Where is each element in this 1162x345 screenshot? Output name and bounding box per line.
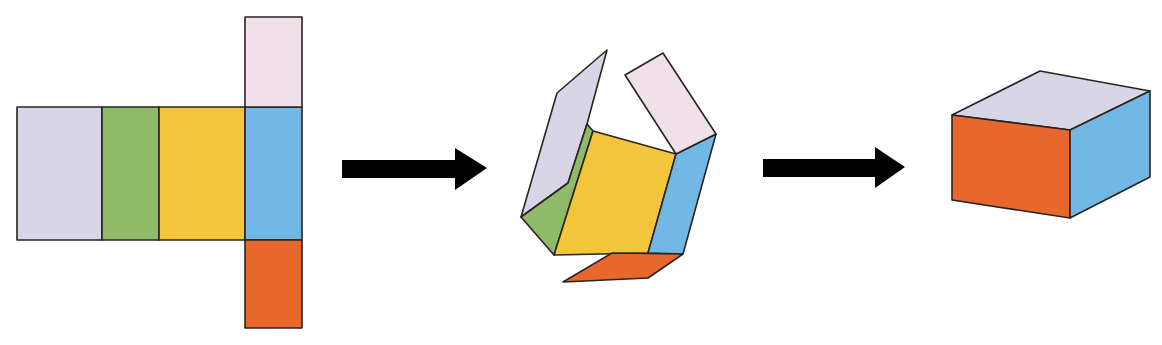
folding-net (521, 50, 716, 282)
pink-flap (245, 17, 302, 107)
blue-face (245, 107, 302, 240)
green-face (102, 107, 159, 240)
closed-box (952, 71, 1150, 218)
diagram-canvas (0, 0, 1162, 345)
arrow-2-icon (763, 147, 905, 188)
arrow-1-icon (342, 148, 487, 190)
lavender-face (17, 107, 102, 240)
orange-flap (563, 253, 683, 282)
front-face (952, 115, 1070, 218)
diagram: Net of a rectangular prism folding into … (0, 0, 1162, 345)
pink-flap (625, 53, 716, 154)
flat-net (17, 17, 302, 328)
yellow-face (159, 107, 245, 240)
orange-flap (245, 240, 302, 328)
